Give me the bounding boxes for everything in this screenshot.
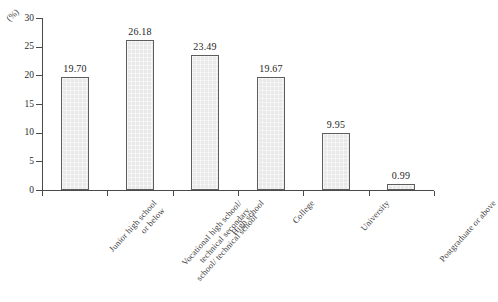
y-tick-mark [36, 133, 42, 134]
category-label: University [359, 198, 392, 233]
x-tick-mark [238, 191, 239, 196]
bar-value-label: 0.99 [371, 171, 431, 181]
category-label-line: Postgraduate or above [437, 198, 498, 264]
category-label: College [290, 198, 316, 226]
x-tick-mark [107, 191, 108, 196]
y-tick-mark [36, 47, 42, 48]
x-tick-mark [173, 191, 174, 196]
category-label-line: University [359, 198, 392, 233]
y-tick-label: 0 [0, 186, 34, 196]
x-tick-mark [42, 191, 43, 196]
y-tick-label: 25 [0, 42, 34, 52]
y-axis-line [42, 18, 43, 191]
bar-value-label: 9.95 [306, 120, 366, 130]
x-tick-mark [369, 191, 370, 196]
bar-value-label: 19.67 [241, 64, 301, 74]
bar [61, 77, 89, 190]
bar [387, 184, 415, 190]
bar [126, 40, 154, 190]
y-tick-mark [36, 75, 42, 76]
y-tick-label: 10 [0, 128, 34, 138]
bar [322, 133, 350, 190]
y-tick-label: 15 [0, 100, 34, 110]
x-tick-mark [434, 191, 435, 196]
y-tick-label: 20 [0, 71, 34, 81]
y-tick-mark [36, 104, 42, 105]
bar [257, 77, 285, 190]
category-label: Postgraduate or above [437, 198, 498, 264]
y-tick-label: 30 [0, 14, 34, 24]
bar-value-label: 26.18 [110, 27, 170, 37]
y-tick-mark [36, 18, 42, 19]
bar-value-label: 23.49 [175, 42, 235, 52]
x-tick-mark [303, 191, 304, 196]
y-tick-label: 5 [0, 157, 34, 167]
bar-value-label: 19.70 [45, 64, 105, 74]
category-label: Junior high schoolor below [107, 198, 167, 261]
y-tick-mark [36, 161, 42, 162]
category-label-line: College [290, 198, 316, 226]
bar [191, 55, 219, 190]
